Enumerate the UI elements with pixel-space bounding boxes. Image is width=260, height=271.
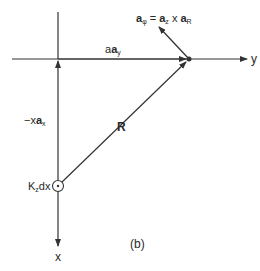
R-label: R [117,121,126,133]
ay-subscript: y [117,49,121,56]
neg-x-ax-label: −xax [24,115,46,126]
a-phi-label: aφ = az x aR [136,13,192,24]
a-ay-label: aay [105,44,121,55]
dx-text: dx [39,180,51,192]
aR-subscript: R [187,18,192,25]
source-dot [57,185,59,187]
equals-sign: = [147,12,160,24]
source-label: Kzdx [28,181,50,192]
cross-sign: x [169,12,181,24]
x-axis-label: x [55,251,61,263]
a-phi-arrow [159,27,189,59]
y-axis-label: y [251,53,257,65]
diagram-canvas [0,0,260,271]
ax-subscript: x [42,120,46,127]
figure-caption: (b) [130,238,145,250]
neg-x-coefficient: −x [24,114,36,126]
field-point [187,57,192,62]
